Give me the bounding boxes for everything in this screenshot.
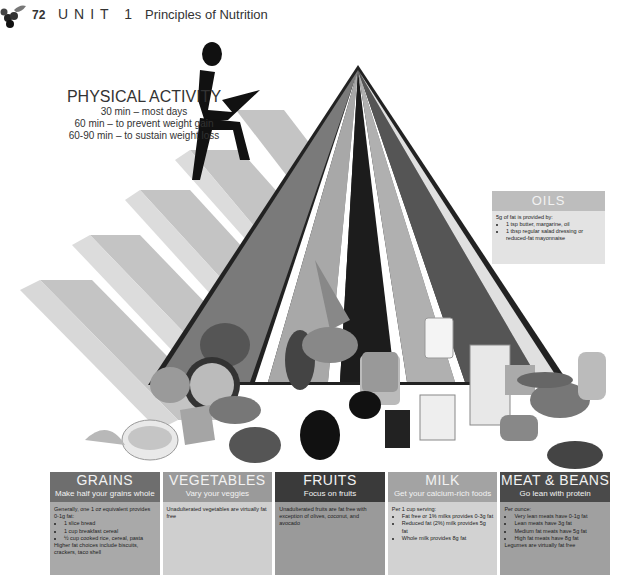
- group-intro: Per 1 cup serving:: [392, 506, 494, 513]
- page-number: 72: [32, 8, 45, 22]
- activity-line: 60 min – to prevent weight gain: [40, 118, 248, 130]
- group-name: FRUITS: [275, 472, 385, 489]
- group-intro: Per ounce:: [504, 506, 606, 513]
- group-item: Very lean meats have 0-1g fat: [514, 513, 606, 520]
- group-tagline: Go lean with protein: [500, 489, 610, 499]
- group-intro: Unadulterated fruits are fat free with e…: [279, 506, 381, 528]
- group-item: Fat free or 1% milks provides 0-3g fat: [402, 513, 494, 520]
- group-tagline: Get your calcium-rich foods: [388, 489, 498, 499]
- group-footer: Higher fat choices include biscuits, cra…: [54, 542, 156, 556]
- group-intro: Generally, one 1 oz equivalent provides …: [54, 506, 156, 520]
- group-meat-beans: MEAT & BEANS Go lean with protein Per ou…: [500, 472, 610, 575]
- group-item: 1 slice bread: [64, 520, 156, 527]
- group-item: High fat meats have 8g fat: [514, 535, 606, 542]
- group-name: VEGETABLES: [163, 472, 273, 489]
- oils-box: OILS 5g of fat is provided by: 1 tsp but…: [492, 191, 605, 264]
- group-item: Lean meats have 3g fat: [514, 520, 606, 527]
- group-tagline: Vary your veggies: [163, 489, 273, 499]
- physical-activity-title: PHYSICAL ACTIVITY: [40, 88, 248, 106]
- group-item: 1 cup breakfast cereal: [64, 528, 156, 535]
- oils-title: OILS: [492, 191, 605, 211]
- oils-intro: 5g of fat is provided by:: [496, 214, 601, 221]
- oils-item: 1 tsp butter, margarine, oil: [506, 221, 601, 228]
- group-intro: Unadulterated vegetables are virtually f…: [167, 506, 269, 520]
- group-body: Per 1 cup serving: Fat free or 1% milks …: [388, 502, 498, 575]
- group-name: MEAT & BEANS: [500, 472, 610, 489]
- group-header: VEGETABLES Vary your veggies: [163, 472, 273, 502]
- group-item: Whole milk provides 8g fat: [402, 535, 494, 542]
- activity-line: 60-90 min – to sustain weight loss: [40, 130, 248, 142]
- group-footer: Legumes are virtually fat free: [504, 542, 606, 549]
- group-fruits: FRUITS Focus on fruits Unadulterated fru…: [275, 472, 385, 575]
- group-body: Unadulterated fruits are fat free with e…: [275, 502, 385, 575]
- activity-line: 30 min – most days: [40, 106, 248, 118]
- food-group-panels: GRAINS Make half your grains whole Gener…: [50, 472, 610, 575]
- group-grains: GRAINS Make half your grains whole Gener…: [50, 472, 160, 575]
- group-header: MEAT & BEANS Go lean with protein: [500, 472, 610, 502]
- group-milk: MILK Get your calcium-rich foods Per 1 c…: [388, 472, 498, 575]
- group-name: MILK: [388, 472, 498, 489]
- oils-body: 5g of fat is provided by: 1 tsp butter, …: [492, 211, 605, 245]
- group-item: Medium fat meats have 5g fat: [514, 528, 606, 535]
- chapter-title: Principles of Nutrition: [145, 7, 268, 22]
- group-item: Reduced fat (2%) milk provides 5g fat: [402, 520, 494, 534]
- grape-icon: [0, 2, 28, 30]
- unit-label: UNIT 1: [58, 6, 138, 22]
- group-header: FRUITS Focus on fruits: [275, 472, 385, 502]
- group-tagline: Make half your grains whole: [50, 489, 160, 499]
- oils-item: 1 tbsp regular salad dressing or reduced…: [506, 228, 601, 242]
- group-body: Unadulterated vegetables are virtually f…: [163, 502, 273, 575]
- group-name: GRAINS: [50, 472, 160, 489]
- group-vegetables: VEGETABLES Vary your veggies Unadulterat…: [163, 472, 273, 575]
- group-body: Per ounce: Very lean meats have 0-1g fat…: [500, 502, 610, 575]
- group-header: GRAINS Make half your grains whole: [50, 472, 160, 502]
- group-tagline: Focus on fruits: [275, 489, 385, 499]
- physical-activity-block: PHYSICAL ACTIVITY 30 min – most days 60 …: [40, 88, 248, 142]
- group-body: Generally, one 1 oz equivalent provides …: [50, 502, 160, 575]
- group-item: ½ cup cooked rice, cereal, pasta: [64, 535, 156, 542]
- group-header: MILK Get your calcium-rich foods: [388, 472, 498, 502]
